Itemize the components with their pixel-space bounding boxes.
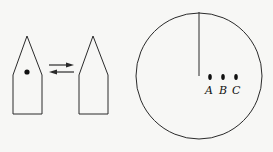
left-pentagon-figure xyxy=(13,36,42,114)
point-b-dot xyxy=(221,74,225,80)
point-c-dot xyxy=(234,74,238,80)
point-a-label: A xyxy=(204,84,213,97)
diagram-canvas: A B C xyxy=(0,0,273,152)
point-b-label: B xyxy=(218,84,227,97)
left-arrow-head-icon xyxy=(49,70,57,75)
point-c-label: C xyxy=(232,84,241,97)
exchange-arrows xyxy=(49,63,74,75)
right-pentagon-figure xyxy=(79,36,108,114)
point-a-dot xyxy=(208,74,212,80)
left-pentagon-dot xyxy=(24,69,29,74)
circle-figure: A B C xyxy=(136,12,262,139)
left-pentagon-outline xyxy=(13,36,42,114)
right-pentagon-outline xyxy=(79,36,108,114)
right-arrow-head-icon xyxy=(66,63,74,68)
